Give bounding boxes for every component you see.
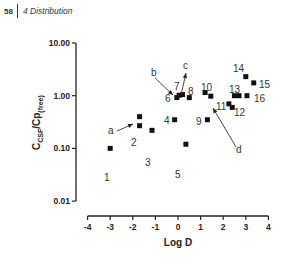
x-tick-label: -4 xyxy=(84,222,92,232)
point-label: 15 xyxy=(259,79,271,90)
y-tick-label: 0.01 xyxy=(53,196,70,206)
annotation-label: b xyxy=(151,67,157,78)
point-label: 9 xyxy=(196,116,202,127)
x-tick-label: 2 xyxy=(221,222,226,232)
point-label: 7 xyxy=(174,81,180,92)
data-point xyxy=(251,80,256,85)
data-point xyxy=(172,117,177,122)
data-point xyxy=(108,146,113,151)
data-point xyxy=(243,74,248,79)
arrow-c-head xyxy=(183,73,187,78)
x-tick-label: 3 xyxy=(243,222,248,232)
y-axis-title: CCSF/Cp(free) xyxy=(31,95,45,150)
point-label: 2 xyxy=(131,137,137,148)
point-label: 13 xyxy=(229,84,241,95)
data-point xyxy=(137,114,142,119)
point-label: 8 xyxy=(188,86,194,97)
point-label: 6 xyxy=(165,93,171,104)
point-label: 1 xyxy=(104,172,110,183)
point-label: 12 xyxy=(234,107,246,118)
x-tick-label: -2 xyxy=(129,222,137,232)
data-point xyxy=(137,123,142,128)
y-tick-label: 10.00 xyxy=(49,38,71,48)
point-label: 3 xyxy=(145,157,151,168)
arrow-d xyxy=(213,108,236,147)
x-axis-title: Log D xyxy=(164,237,192,248)
x-tick-label: 1 xyxy=(198,222,203,232)
annotation-label: c xyxy=(183,60,188,71)
point-label: 5 xyxy=(175,169,181,180)
x-tick-label: -1 xyxy=(152,222,160,232)
y-tick-label: 1.00 xyxy=(53,91,70,101)
data-point xyxy=(244,93,249,98)
data-point xyxy=(208,94,213,99)
x-tick-label: 4 xyxy=(266,222,271,232)
annotation-label: d xyxy=(236,144,242,155)
point-label: 16 xyxy=(254,93,266,104)
point-label: 11 xyxy=(216,101,227,112)
point-label: 10 xyxy=(201,82,213,93)
annotation-label: a xyxy=(108,125,114,136)
point-label: 4 xyxy=(164,115,170,126)
y-tick-label: 0.10 xyxy=(53,143,70,153)
x-tick-label: -3 xyxy=(106,222,114,232)
data-point xyxy=(150,128,155,133)
data-point xyxy=(205,117,210,122)
point-label: 14 xyxy=(233,63,245,74)
data-point xyxy=(183,142,188,147)
scatter-chart: 10.001.000.100.01-4-3-2-101234Log DCCSF/… xyxy=(0,0,284,260)
x-tick-label: 0 xyxy=(176,222,181,232)
